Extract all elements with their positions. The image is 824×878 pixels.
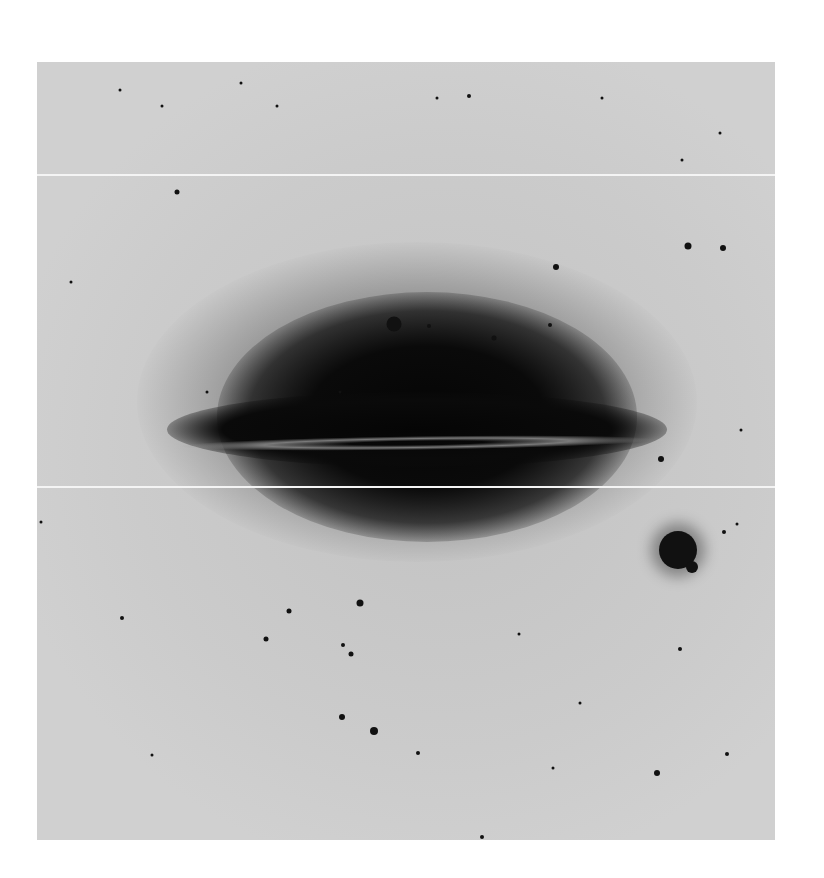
scan-line-upper xyxy=(37,174,775,176)
star xyxy=(601,97,604,100)
star xyxy=(240,82,243,85)
star xyxy=(427,324,431,328)
star xyxy=(480,835,484,839)
star xyxy=(736,523,739,526)
star xyxy=(119,89,122,92)
star xyxy=(492,336,497,341)
galaxy-photograph xyxy=(37,62,775,840)
star xyxy=(175,190,180,195)
star xyxy=(552,767,555,770)
star xyxy=(467,94,471,98)
star xyxy=(70,281,73,284)
star xyxy=(206,391,209,394)
star xyxy=(387,317,402,332)
star xyxy=(658,456,664,462)
star xyxy=(740,429,743,432)
star xyxy=(548,323,552,327)
star xyxy=(720,245,726,251)
star xyxy=(725,752,729,756)
star xyxy=(681,159,684,162)
star xyxy=(349,652,354,657)
star xyxy=(276,105,279,108)
star xyxy=(685,243,692,250)
star xyxy=(161,105,164,108)
star xyxy=(654,770,660,776)
star xyxy=(264,637,269,642)
star xyxy=(151,754,154,757)
star xyxy=(416,751,420,755)
star xyxy=(370,727,378,735)
star xyxy=(40,521,43,524)
star xyxy=(719,132,722,135)
scan-line-lower xyxy=(37,486,775,488)
star xyxy=(339,391,342,394)
star xyxy=(120,616,124,620)
star xyxy=(518,633,521,636)
star xyxy=(357,600,364,607)
star xyxy=(341,643,345,647)
star xyxy=(678,647,682,651)
star xyxy=(722,530,726,534)
galaxy-disk xyxy=(167,392,667,467)
star xyxy=(553,264,559,270)
star xyxy=(287,609,292,614)
star xyxy=(339,714,345,720)
star xyxy=(436,97,439,100)
star xyxy=(686,561,698,573)
star xyxy=(579,702,582,705)
